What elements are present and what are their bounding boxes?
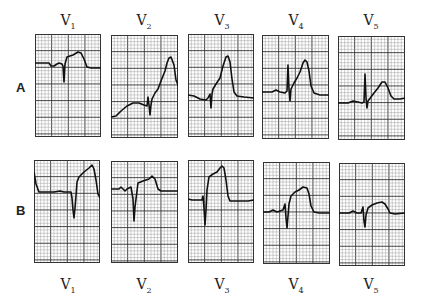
ecg-panel-b-v5 (339, 163, 405, 266)
ecg-grid-paper (111, 35, 178, 138)
ecg-grid-paper (262, 35, 329, 139)
bottom-lead-label-5: V5 (363, 276, 378, 295)
ecg-grid-paper (338, 36, 405, 140)
top-lead-label-1: V1 (60, 12, 75, 31)
top-lead-label-4: V4 (288, 12, 303, 31)
bottom-lead-label-2: V2 (136, 276, 151, 295)
ecg-grid-paper (188, 160, 254, 263)
ecg-panel-a-v1 (35, 34, 101, 137)
ecg-grid-paper (34, 160, 100, 263)
ecg-grid-paper (263, 162, 330, 264)
ecg-grid-paper (111, 161, 178, 263)
ecg-panel-a-v3 (188, 34, 254, 137)
ecg-grid-paper (339, 163, 405, 266)
top-lead-label-3: V3 (214, 12, 229, 31)
ecg-panel-b-v2 (111, 161, 178, 263)
row-label-a: A (16, 80, 25, 95)
ecg-panel-a-v4 (262, 35, 329, 139)
bottom-lead-label-3: V3 (214, 276, 229, 295)
ecg-panel-a-v5 (338, 36, 405, 140)
ecg-panel-a-v2 (111, 35, 178, 138)
ecg-grid-paper (188, 34, 254, 137)
top-lead-label-5: V5 (363, 12, 378, 31)
bottom-lead-label-4: V4 (288, 276, 303, 295)
ecg-panel-b-v1 (34, 160, 100, 263)
ecg-panel-b-v3 (188, 160, 254, 263)
ecg-grid-paper (35, 34, 101, 137)
top-lead-label-2: V2 (136, 12, 151, 31)
bottom-lead-label-1: V1 (60, 276, 75, 295)
ecg-panel-b-v4 (263, 162, 330, 264)
row-label-b: B (16, 203, 25, 218)
